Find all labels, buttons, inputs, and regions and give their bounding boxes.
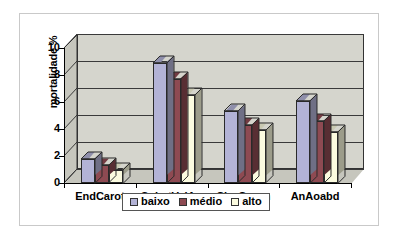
gridline xyxy=(77,61,364,62)
legend-swatch-icon xyxy=(231,198,239,206)
legend-swatch-icon xyxy=(179,198,187,206)
bar-3d-outline xyxy=(81,151,103,184)
chart-legend: baixomédioalto xyxy=(122,193,270,211)
legend-item[interactable]: baixo xyxy=(130,196,170,207)
x-axis-category-label: AnAoabd xyxy=(279,190,351,202)
chart-frame: mortalidade % 1086420 EndCarotSubstValAo… xyxy=(19,13,379,226)
legend-item[interactable]: médio xyxy=(179,196,222,207)
bar-3d-outline xyxy=(296,93,318,184)
bar xyxy=(81,159,95,183)
y-axis-tick-label: 2 xyxy=(36,150,60,161)
legend-label: baixo xyxy=(141,196,170,207)
y-axis-tick-label: 6 xyxy=(36,96,60,107)
legend-swatch-icon xyxy=(130,198,138,206)
gridline xyxy=(77,88,364,89)
y-axis-tick-label: 10 xyxy=(36,42,60,53)
legend-item[interactable]: alto xyxy=(231,196,262,207)
legend-label: médio xyxy=(190,196,222,207)
x-axis-tick xyxy=(208,184,209,188)
bar xyxy=(296,101,310,183)
x-axis-tick xyxy=(351,184,352,188)
x-axis-tick xyxy=(64,184,65,188)
bar xyxy=(224,111,238,183)
plot-area: 1086420 EndCarotSubstValAoCirgCoronAnAoa… xyxy=(64,34,364,189)
bar xyxy=(153,63,167,183)
bar-3d-outline xyxy=(224,103,246,184)
x-axis-tick xyxy=(279,184,280,188)
left-wall-edges xyxy=(64,34,78,184)
legend-label: alto xyxy=(242,196,262,207)
y-axis-tick-label: 4 xyxy=(36,123,60,134)
gridline xyxy=(77,34,364,35)
y-axis-tick-label: 8 xyxy=(36,69,60,80)
y-axis-line xyxy=(64,48,65,184)
x-axis-tick xyxy=(136,184,137,188)
y-axis-tick-labels: 1086420 xyxy=(34,34,60,189)
y-axis-tick-label: 0 xyxy=(36,177,60,188)
bar-3d-outline xyxy=(153,55,175,184)
